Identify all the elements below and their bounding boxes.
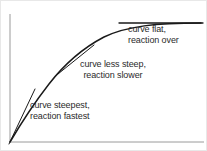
annotation-curve-flat-line1: curve flat,	[128, 24, 179, 35]
reaction-curve-figure: curve flat, reaction over curve less ste…	[0, 0, 207, 151]
annotation-curve-flat: curve flat, reaction over	[128, 24, 179, 46]
annotation-curve-steepest: curve steepest, reaction fastest	[30, 100, 90, 122]
annotation-curve-less-steep-line1: curve less steep,	[80, 59, 146, 70]
annotation-curve-less-steep: curve less steep, reaction slower	[80, 59, 146, 81]
annotation-curve-steepest-line2: reaction fastest	[30, 111, 90, 122]
annotation-curve-less-steep-line2: reaction slower	[80, 70, 146, 81]
annotation-curve-steepest-line1: curve steepest,	[30, 100, 90, 111]
annotation-curve-flat-line2: reaction over	[128, 35, 179, 46]
